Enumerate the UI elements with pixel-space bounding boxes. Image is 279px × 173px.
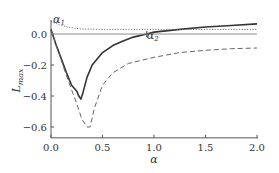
y-tick-label: −0.4 — [23, 91, 47, 102]
y-tick-label: −0.6 — [23, 122, 47, 133]
line-chart-plot: 0.00.51.01.52.00.0−0.2−0.4−0.6αLmaxα1α2 — [0, 0, 279, 173]
x-tick-label: 2.0 — [249, 142, 265, 153]
x-tick-label: 0.0 — [43, 142, 59, 153]
x-axis-label: α — [150, 153, 158, 166]
annotation-α1: α1 — [53, 13, 65, 27]
chart: 0.00.51.01.52.00.0−0.2−0.4−0.6αLmaxα1α2 — [0, 0, 279, 173]
annotation-α2: α2 — [147, 29, 159, 43]
y-tick-label: 0.0 — [31, 29, 47, 40]
x-tick-label: 1.0 — [146, 142, 162, 153]
y-tick-label: −0.2 — [23, 60, 47, 71]
y-axis-label: Lmax — [10, 68, 25, 94]
x-tick-label: 1.5 — [198, 142, 214, 153]
series-dashed — [51, 29, 257, 127]
x-tick-label: 0.5 — [95, 142, 111, 153]
